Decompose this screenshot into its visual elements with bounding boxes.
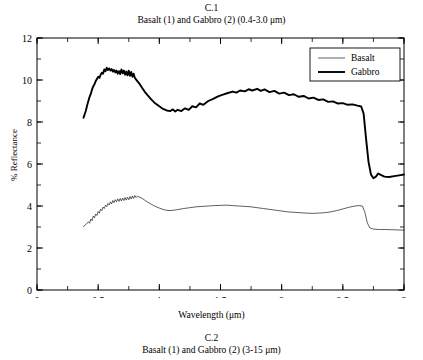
series-line-gabbro — [83, 68, 404, 178]
x-tick-label: 1 — [157, 295, 162, 298]
series-line-basalt — [83, 196, 404, 231]
x-tick-label: 3 — [402, 295, 407, 298]
chart-plot-area: 00.511.522.53 024681012 Basalt Gabbro % … — [0, 30, 423, 298]
figure-caption-text: Basalt (1) and Gabbro (2) (0.4-3.0 μm) — [0, 14, 423, 26]
y-tick-label: 8 — [27, 117, 32, 128]
next-figure-number: C.2 — [0, 332, 423, 344]
x-tick-label: 0.5 — [92, 295, 105, 298]
x-tick-label: 2.5 — [337, 295, 350, 298]
y-tick-label: 4 — [27, 201, 32, 212]
y-axis-title: % Reflectance — [9, 95, 19, 215]
next-figure-caption-text: Basalt (1) and Gabbro (2) (3-15 μm) — [0, 344, 423, 356]
chart-legend: Basalt Gabbro — [310, 48, 400, 81]
x-tick-label: 1.5 — [214, 295, 227, 298]
data-series-group — [83, 68, 404, 230]
x-tick-label: 2 — [279, 295, 284, 298]
y-tick-label: 10 — [22, 75, 32, 86]
x-axis-tick-labels: 00.511.522.53 — [35, 295, 407, 298]
figure-number: C.1 — [0, 2, 423, 14]
x-tick-label: 0 — [35, 295, 40, 298]
figure-title: C.1 Basalt (1) and Gabbro (2) (0.4-3.0 μ… — [0, 2, 423, 26]
y-axis-tick-labels: 024681012 — [22, 33, 32, 296]
x-axis-title: Wavelength (μm) — [0, 310, 423, 320]
next-figure-caption: C.2 Basalt (1) and Gabbro (2) (3-15 μm) — [0, 332, 423, 356]
y-tick-label: 2 — [27, 243, 32, 254]
legend-label-basalt: Basalt — [351, 53, 375, 63]
legend-label-gabbro: Gabbro — [351, 67, 380, 77]
y-tick-label: 6 — [27, 159, 32, 170]
y-tick-label: 12 — [22, 33, 32, 44]
spectral-reflectance-chart: 00.511.522.53 024681012 Basalt Gabbro — [0, 30, 423, 298]
y-tick-label: 0 — [27, 285, 32, 296]
